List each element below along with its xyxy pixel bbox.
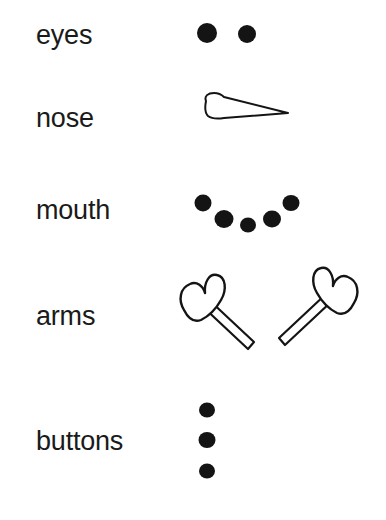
- button-dot-2: [199, 432, 216, 448]
- eyes-art: [150, 0, 386, 80]
- carrot-nose-icon: [205, 93, 288, 119]
- eye-dot-left: [197, 23, 217, 43]
- diagram-canvas: eyes nose mouth: [0, 0, 386, 520]
- mouth-dot-2: [215, 210, 234, 228]
- label-mouth: mouth: [36, 197, 110, 224]
- arm-left: [181, 275, 254, 349]
- label-eyes: eyes: [36, 22, 92, 49]
- eye-dot-right: [238, 25, 256, 43]
- row-nose: nose: [0, 80, 386, 180]
- row-buttons: buttons: [0, 390, 386, 520]
- mouth-art: [150, 180, 386, 265]
- nose-art: [150, 80, 386, 180]
- row-eyes: eyes: [0, 0, 386, 80]
- mouth-dot-4: [263, 211, 281, 228]
- button-dot-3: [199, 464, 215, 479]
- label-nose: nose: [36, 105, 94, 132]
- mouth-dot-3: [240, 218, 256, 233]
- row-arms: arms: [0, 265, 386, 390]
- mouth-dot-5: [283, 195, 300, 211]
- row-mouth: mouth: [0, 180, 386, 265]
- arms-art: [150, 265, 386, 390]
- arm-right: [279, 268, 357, 345]
- mouth-dot-1: [195, 195, 212, 212]
- button-dot-1: [199, 403, 215, 418]
- buttons-art: [150, 390, 386, 520]
- label-buttons: buttons: [36, 428, 123, 455]
- label-arms: arms: [36, 303, 95, 330]
